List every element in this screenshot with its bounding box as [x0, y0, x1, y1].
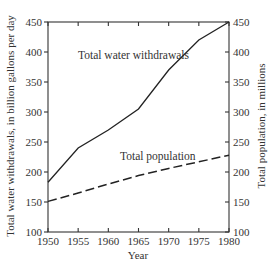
y2-tick-label: 300: [233, 106, 250, 118]
x-tick-label: 1955: [67, 235, 90, 247]
y2-tick-label: 250: [233, 136, 250, 148]
y-tick-label: 300: [26, 106, 43, 118]
y-tick-label: 200: [26, 166, 43, 178]
y2-tick-label: 400: [233, 46, 250, 58]
annotation-water-withdrawals: Total water withdrawals: [78, 49, 189, 61]
y2-tick-label: 450: [233, 16, 250, 28]
series-line-total-population: [48, 155, 229, 201]
y2-tick-label: 350: [233, 76, 250, 88]
y2-axis-label: Total population, in millions: [255, 63, 267, 188]
annotation-total-population: Total population: [120, 150, 196, 163]
y2-tick-label: 150: [233, 196, 250, 208]
y-tick-label: 250: [26, 136, 43, 148]
y2-tick-label: 200: [233, 166, 250, 178]
y2-tick-label: 100: [233, 226, 250, 238]
y-tick-label: 350: [26, 76, 43, 88]
x-tick-label: 1975: [188, 235, 211, 247]
x-tick-label: 1970: [158, 235, 181, 247]
y-tick-label: 400: [26, 46, 43, 58]
y-tick-label: 150: [26, 196, 43, 208]
chart: 1950195519601965197019751980100150200250…: [0, 0, 276, 273]
x-tick-label: 1960: [97, 235, 120, 247]
y-tick-label: 450: [26, 16, 43, 28]
x-tick-label: 1965: [128, 235, 151, 247]
y-tick-label: 100: [26, 226, 43, 238]
y-axis-label: Total water withdrawals, in billion gall…: [4, 15, 16, 237]
x-axis-label: Year: [128, 249, 149, 261]
